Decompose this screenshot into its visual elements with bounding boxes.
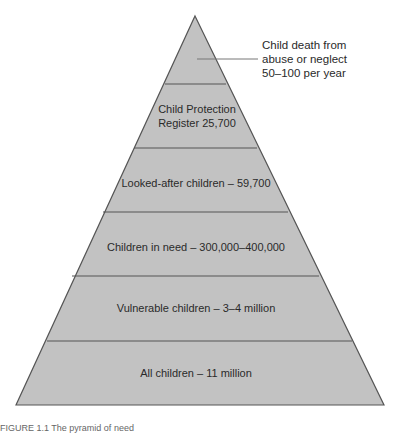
layer-label-children-in-need: Children in need – 300,000–400,000 [107,240,285,254]
layer-label-vulnerable: Vulnerable children – 3–4 million [117,301,276,315]
layer-label-child-protection: Child Protection Register 25,700 [158,102,236,130]
figure-caption: FIGURE 1.1 The pyramid of need [0,423,134,433]
label-line: Register 25,700 [158,116,236,130]
layer-label-looked-after: Looked-after children – 59,700 [121,176,270,190]
label-line: Child Protection [158,102,236,116]
layer-label-all-children: All children – 11 million [140,366,252,380]
callout-child-death: Child death from abuse or neglect 50–100… [262,38,347,80]
